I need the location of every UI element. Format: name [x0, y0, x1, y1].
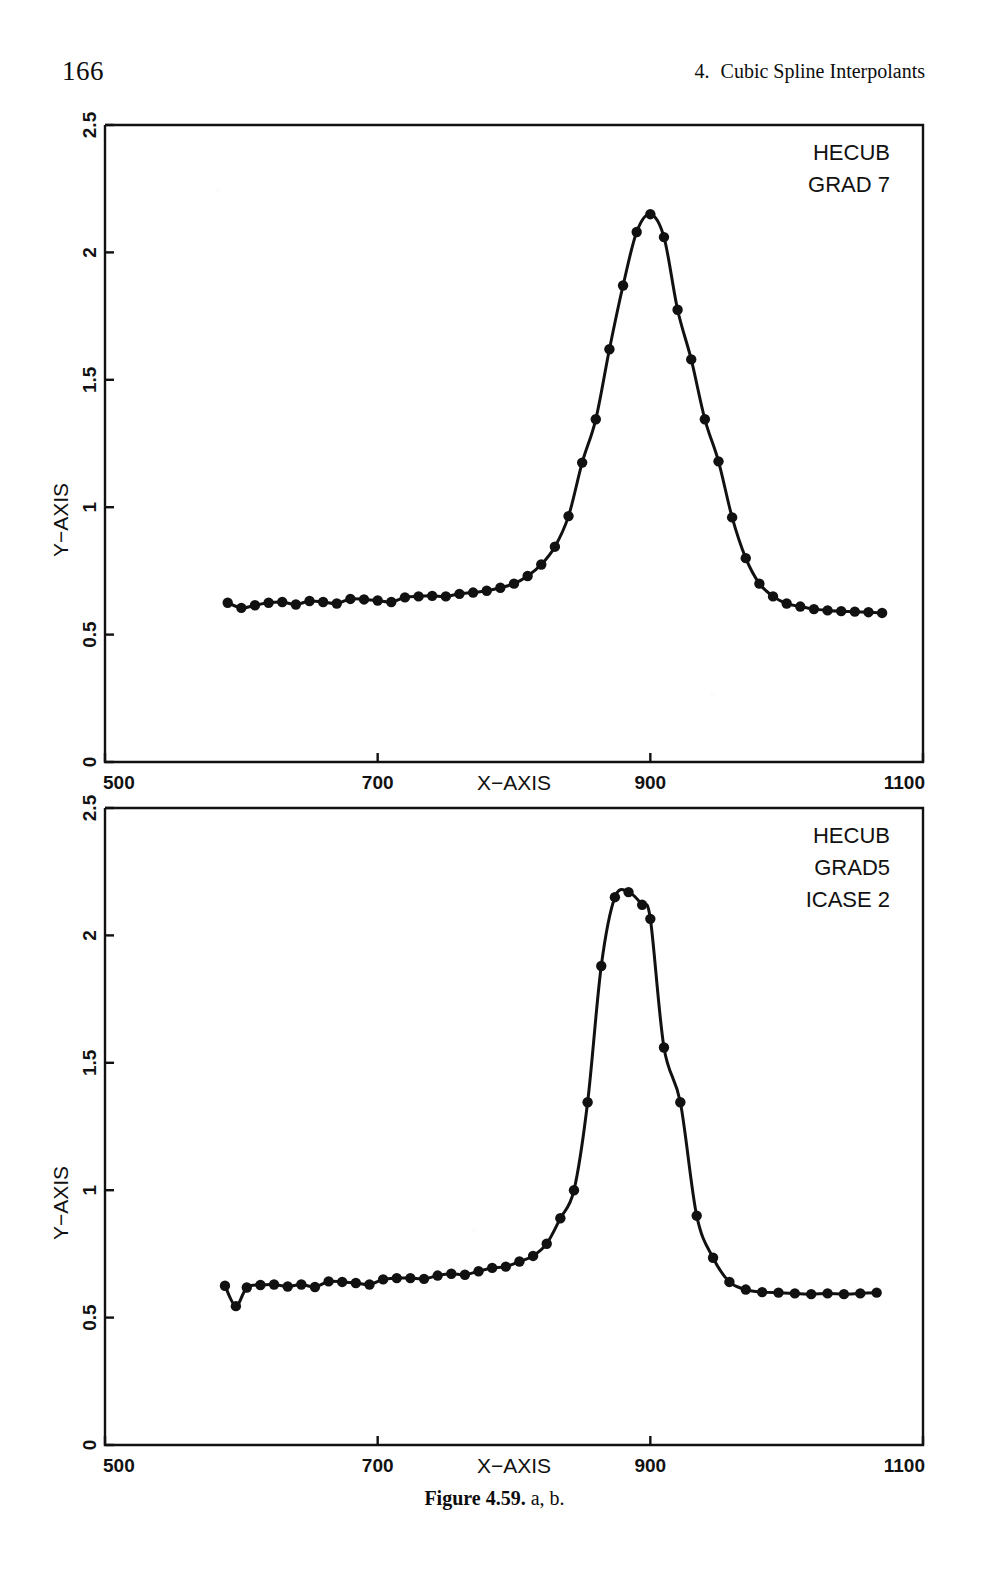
running-head-title: Cubic Spline Interpolants: [721, 60, 925, 82]
y-tick-label: 1.5: [79, 1049, 100, 1076]
data-point-marker: [282, 1281, 292, 1291]
data-point-marker: [708, 1253, 718, 1263]
data-point-marker: [304, 596, 314, 606]
data-point-marker: [877, 608, 887, 618]
data-point-marker: [392, 1273, 402, 1283]
data-point-marker: [427, 591, 437, 601]
data-point-marker: [855, 1288, 865, 1298]
axis-tick-labels-a: 500700900110000.511.522.5: [79, 111, 925, 793]
data-point-marker: [659, 1042, 669, 1052]
data-point-marker: [528, 1251, 538, 1261]
data-point-marker: [231, 1301, 241, 1311]
data-point-marker: [323, 1276, 333, 1286]
data-point-marker: [372, 595, 382, 605]
data-point-marker: [672, 305, 682, 315]
data-point-marker: [836, 606, 846, 616]
plot-frame-a: [105, 125, 923, 762]
data-point-marker: [413, 591, 423, 601]
data-point-marker: [659, 232, 669, 242]
data-point-marker: [242, 1282, 252, 1292]
data-point-marker: [727, 512, 737, 522]
data-point-marker: [220, 1281, 230, 1291]
axis-ticks-b: [105, 808, 923, 1445]
data-point-marker: [332, 598, 342, 608]
data-point-marker: [645, 914, 655, 924]
y-tick-label: 1: [79, 501, 100, 512]
y-tick-label: 2.5: [79, 111, 100, 138]
data-point-marker: [610, 892, 620, 902]
data-point-marker: [277, 597, 287, 607]
y-axis-label: Y−AXIS: [49, 1166, 72, 1240]
chart-figure-4-59-b: Y−AXIS X−AXIS 500700900110000.511.522.5 …: [0, 783, 989, 1483]
data-point-marker: [495, 583, 505, 593]
plot-frame-b: [105, 808, 923, 1445]
data-point-marker: [419, 1274, 429, 1284]
data-point-marker: [454, 589, 464, 599]
data-point-marker: [675, 1097, 685, 1107]
data-point-marker: [263, 598, 273, 608]
data-point-marker: [839, 1289, 849, 1299]
data-point-marker: [806, 1289, 816, 1299]
data-point-marker: [351, 1278, 361, 1288]
data-point-marker: [850, 606, 860, 616]
data-point-marker: [632, 227, 642, 237]
y-tick-label: 1: [79, 1184, 100, 1195]
data-point-marker: [441, 591, 451, 601]
annotation-icase: ICASE 2: [806, 887, 890, 912]
figure-caption: Figure 4.59. a, b.: [0, 1487, 989, 1510]
y-tick-label: 1.5: [79, 366, 100, 393]
data-point-marker: [255, 1280, 265, 1290]
data-point-marker: [822, 605, 832, 615]
data-point-marker: [318, 597, 328, 607]
data-point-marker: [871, 1287, 881, 1297]
data-point-marker: [645, 209, 655, 219]
data-point-marker: [550, 541, 560, 551]
data-point-marker: [637, 900, 647, 910]
data-point-marker: [569, 1185, 579, 1195]
data-point-marker: [768, 591, 778, 601]
data-markers-a: [223, 209, 888, 618]
data-point-marker: [250, 600, 260, 610]
chart-figure-4-59-a: Y−AXIS X−AXIS 500700900110000.511.522.5 …: [0, 100, 989, 800]
y-tick-label: 0.5: [79, 621, 100, 648]
x-tick-label: 500: [103, 1455, 135, 1476]
data-point-marker: [596, 961, 606, 971]
data-point-marker: [754, 578, 764, 588]
y-tick-label: 0.5: [79, 1304, 100, 1331]
annotation-grad: GRAD5: [814, 855, 890, 880]
data-point-marker: [432, 1270, 442, 1280]
y-tick-label: 0: [79, 1440, 100, 1451]
data-point-marker: [741, 553, 751, 563]
data-point-marker: [501, 1261, 511, 1271]
figure-panel-b: Y−AXIS X−AXIS 500700900110000.511.522.5 …: [0, 783, 989, 1483]
figure-caption-label: Figure 4.59.: [424, 1487, 525, 1509]
data-point-marker: [405, 1273, 415, 1283]
x-tick-label: 700: [362, 1455, 394, 1476]
data-point-marker: [700, 414, 710, 424]
running-head: 4.Cubic Spline Interpolants: [695, 60, 925, 83]
data-point-marker: [724, 1277, 734, 1287]
y-tick-label: 2: [79, 247, 100, 258]
data-point-marker: [809, 604, 819, 614]
y-tick-label: 2: [79, 930, 100, 941]
data-point-marker: [345, 594, 355, 604]
data-point-marker: [359, 594, 369, 604]
y-axis-label: Y−AXIS: [49, 483, 72, 557]
data-point-marker: [604, 344, 614, 354]
data-point-marker: [291, 599, 301, 609]
data-point-marker: [741, 1284, 751, 1294]
running-head-chapter-number: 4.: [695, 60, 710, 82]
data-point-marker: [473, 1266, 483, 1276]
data-point-marker: [468, 587, 478, 597]
data-point-marker: [781, 598, 791, 608]
data-point-marker: [446, 1269, 456, 1279]
data-point-marker: [223, 598, 233, 608]
data-point-marker: [577, 457, 587, 467]
data-point-marker: [713, 456, 723, 466]
data-point-marker: [795, 601, 805, 611]
data-point-marker: [460, 1270, 470, 1280]
data-point-marker: [773, 1287, 783, 1297]
data-point-marker: [514, 1256, 524, 1266]
x-tick-label: 900: [634, 1455, 666, 1476]
annotation-grad: GRAD 7: [808, 172, 890, 197]
